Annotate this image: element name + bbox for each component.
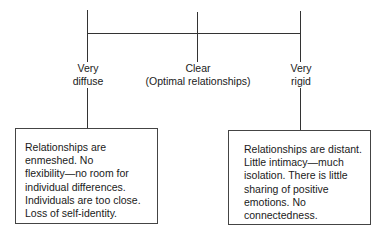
rigid-text-line: isolation. There is little xyxy=(244,169,370,182)
rigid-text-line: connectedness. xyxy=(244,209,370,222)
rigid-text-line: sharing of positive xyxy=(244,183,370,196)
very-diffuse-line2: diffuse xyxy=(68,75,108,88)
very-rigid-line1: Very xyxy=(285,62,317,75)
rigid-text-line: Relationships are distant. xyxy=(244,143,370,156)
horizontal-axis-line xyxy=(87,33,301,34)
clear-line2: (Optimal relationships) xyxy=(137,75,259,88)
rigid-text-line: emotions. No xyxy=(244,196,370,209)
diffuse-text-line: Individuals are too close. xyxy=(25,194,157,207)
diffuse-text-line: flexibility—no room for xyxy=(25,167,157,180)
rigid-text-line: Little intimacy—much xyxy=(244,156,370,169)
diffuse-text-line: Loss of self-identity. xyxy=(25,207,157,220)
diffuse-description-box: Relationships are enmeshed. No flexibili… xyxy=(15,128,158,224)
very-diffuse-line1: Very xyxy=(68,62,108,75)
diffuse-text-line: enmeshed. No xyxy=(25,154,157,167)
rigid-description-box: Relationships are distant. Little intima… xyxy=(228,130,371,225)
very-diffuse-label: Very diffuse xyxy=(68,62,108,88)
very-rigid-label: Very rigid xyxy=(285,62,317,88)
diffuse-text-line: Relationships are xyxy=(25,141,157,154)
diffuse-text-line: individual differences. xyxy=(25,181,157,194)
clear-label: Clear (Optimal relationships) xyxy=(137,62,259,88)
very-rigid-line2: rigid xyxy=(285,75,317,88)
clear-connector-line xyxy=(197,12,198,62)
clear-line1: Clear xyxy=(137,62,259,75)
